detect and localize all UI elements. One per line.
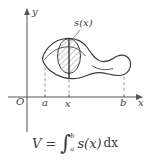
y-axis	[24, 8, 30, 132]
formula-equals: =	[45, 136, 56, 151]
formula-integrand: s(x)	[77, 136, 101, 151]
label-tick-a: a	[42, 98, 48, 108]
formula-differential: dx	[104, 136, 118, 150]
integral-lower-limit: a	[70, 146, 74, 153]
volume-formula: V = ∫ b a s(x) dx	[0, 128, 150, 158]
figure-container: s(x) y x O a x b V = ∫ b a s(x) dx	[0, 0, 150, 163]
integral-upper-limit: b	[70, 133, 74, 140]
label-tick-x: x	[65, 99, 71, 109]
integral-with-limits: ∫ b a	[60, 134, 74, 153]
label-cross-section-area: s(x)	[74, 18, 93, 28]
label-tick-b: b	[120, 98, 126, 108]
formula-lhs: V	[32, 136, 41, 151]
solid-body	[43, 38, 131, 78]
label-origin: O	[16, 97, 24, 107]
label-y-axis: y	[32, 7, 38, 17]
integral-limits: b a	[70, 134, 74, 153]
label-x-axis: x	[138, 98, 144, 108]
